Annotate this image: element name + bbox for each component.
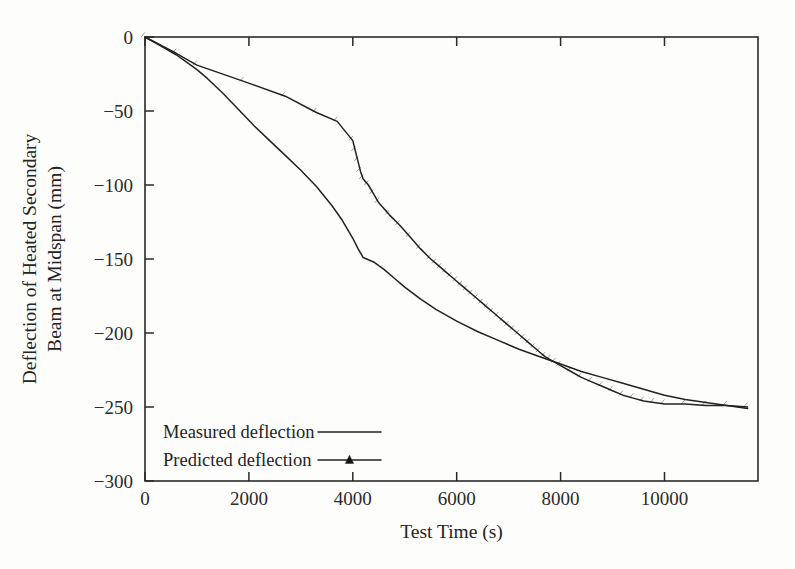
x-tick-label: 8000: [542, 488, 580, 509]
chart-legend: Measured deflectionPredicted deflection: [163, 422, 381, 470]
y-axis-title: Deflection of Heated SecondaryBeam at Mi…: [19, 133, 66, 384]
series-line: [145, 37, 748, 408]
legend-item-predicted[interactable]: Predicted deflection: [163, 450, 381, 470]
legend-label: Predicted deflection: [163, 450, 311, 470]
series-measured-deflection: [145, 37, 748, 408]
series-predicted-deflection: [141, 32, 748, 407]
series-line: [145, 37, 748, 407]
legend-label: Measured deflection: [163, 422, 315, 442]
x-tick-label: 10000: [641, 488, 689, 509]
x-tick-label: 6000: [438, 488, 476, 509]
x-tick-label: 0: [140, 488, 150, 509]
y-tick-label: −100: [94, 175, 133, 196]
y-tick-label: −250: [94, 397, 133, 418]
plot-frame: [145, 37, 758, 481]
series-layer: [141, 32, 748, 408]
x-axis-title: Test Time (s): [400, 521, 503, 543]
y-tick-label: −50: [103, 101, 133, 122]
deflection-line-chart: 02000400060008000100000−50−100−150−200−2…: [0, 0, 795, 569]
y-tick-label: −200: [94, 323, 133, 344]
x-tick-label: 4000: [334, 488, 372, 509]
x-tick-label: 2000: [230, 488, 268, 509]
y-axis-title-line1: Deflection of Heated Secondary: [19, 133, 40, 384]
y-tick-label: −300: [94, 471, 133, 492]
y-axis-title-line2: Beam at Midspan (mm): [44, 166, 66, 352]
legend-item-measured[interactable]: Measured deflection: [163, 422, 381, 442]
chart-figure: 02000400060008000100000−50−100−150−200−2…: [0, 0, 795, 569]
y-tick-label: 0: [124, 27, 134, 48]
y-tick-label: −150: [94, 249, 133, 270]
